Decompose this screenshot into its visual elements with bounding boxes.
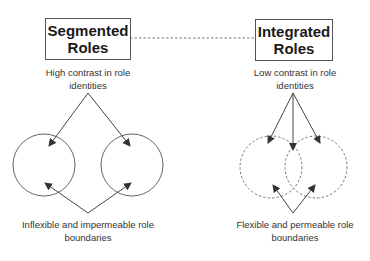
arrow-high-contrast-right	[88, 93, 130, 146]
integrated-roles-title-line2: Roles	[256, 40, 332, 57]
flexible-boundaries-label-line1: Flexible and permeable role	[220, 218, 370, 231]
segmented-roles-box: Segmented Roles	[45, 18, 131, 60]
arrow-inflexible-right	[88, 183, 131, 213]
low-contrast-label-line2: identities	[235, 79, 355, 92]
segmented-role-circle-1	[13, 134, 75, 196]
high-contrast-label-line1: High contrast in role	[28, 66, 148, 79]
arrow-flexible-right	[293, 185, 315, 213]
arrow-low-contrast-left	[268, 93, 293, 143]
segmented-role-circle-2	[101, 134, 163, 196]
high-contrast-label: High contrast in role identities	[28, 66, 148, 92]
integrated-roles-box: Integrated Roles	[255, 19, 333, 61]
segmented-roles-title-line2: Roles	[46, 39, 130, 56]
inflexible-boundaries-label: Inflexible and impermeable role boundari…	[8, 218, 168, 244]
inflexible-boundaries-label-line2: boundaries	[8, 231, 168, 244]
integrated-roles-title-line1: Integrated	[256, 23, 332, 40]
low-contrast-label-line1: Low contrast in role	[235, 66, 355, 79]
arrow-low-contrast-right	[293, 93, 320, 143]
flexible-boundaries-label: Flexible and permeable role boundaries	[220, 218, 370, 244]
arrow-inflexible-left	[45, 183, 88, 213]
flexible-boundaries-label-line2: boundaries	[220, 231, 370, 244]
inflexible-boundaries-label-line1: Inflexible and impermeable role	[8, 218, 168, 231]
segmented-roles-title-line1: Segmented	[46, 22, 130, 39]
high-contrast-label-line2: identities	[28, 79, 148, 92]
arrow-high-contrast-left	[49, 93, 88, 146]
integrated-role-circle-2	[285, 136, 347, 198]
arrow-flexible-left	[273, 185, 293, 213]
low-contrast-label: Low contrast in role identities	[235, 66, 355, 92]
